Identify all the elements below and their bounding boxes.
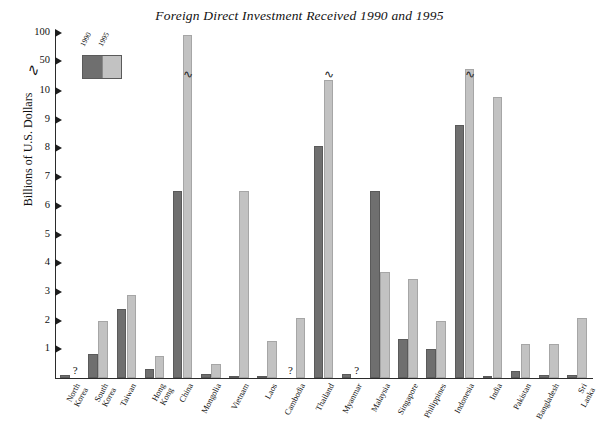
bar-laos-1995 — [267, 341, 277, 378]
x-label-china: China — [177, 382, 194, 404]
legend-swatch — [82, 55, 122, 79]
y-tick-9 — [55, 116, 62, 124]
y-tick-3 — [55, 288, 62, 296]
x-label-india: India — [488, 382, 504, 401]
legend-swatch-1990 — [83, 56, 102, 78]
y-tick-50 — [55, 57, 62, 65]
y-tick-4 — [55, 259, 62, 267]
bar-thailand-1990 — [314, 146, 324, 378]
bar-taiwan-1995 — [127, 295, 137, 378]
y-tick-label-2: 2 — [16, 314, 50, 325]
bar-indonesia-1995 — [465, 69, 475, 379]
bar-thailand-1995 — [324, 80, 334, 378]
bar-south-korea-1990 — [88, 354, 98, 378]
chart-legend: 1990 1995 — [82, 43, 126, 77]
x-label-philippines: Philippines — [422, 382, 448, 420]
x-label-cambodia: Cambodia — [283, 382, 307, 417]
x-label-singapore: Singapore — [396, 382, 420, 416]
bar-break-icon-indonesia: ∿ — [465, 69, 474, 80]
y-tick-label-6: 6 — [16, 199, 50, 210]
legend-label-1990: 1990 — [78, 31, 93, 48]
y-tick-label-3: 3 — [16, 285, 50, 296]
missing-marker-north-korea-1995: ? — [70, 364, 80, 376]
bar-indonesia-1990 — [455, 125, 465, 378]
y-axis-break-icon: ∿ — [28, 60, 39, 82]
chart-container: Foreign Direct Investment Received 1990 … — [0, 0, 599, 425]
y-tick-6 — [55, 202, 62, 210]
bar-china-1995 — [183, 35, 193, 378]
bar-vietnam-1990 — [229, 376, 239, 378]
bar-pakistan-1990 — [511, 371, 521, 378]
bar-taiwan-1990 — [117, 309, 127, 378]
bar-mongolia-1995 — [211, 364, 221, 378]
bar-india-1990 — [483, 376, 493, 378]
bar-sri-lanka-1990 — [567, 375, 577, 378]
bar-india-1995 — [493, 97, 503, 378]
x-label-malaysia: Malaysia — [369, 382, 391, 413]
x-label-laos: Laos — [264, 382, 280, 401]
bar-philippines-1995 — [436, 321, 446, 378]
y-tick-label-9: 9 — [16, 113, 50, 124]
x-label-pakistan: Pakistan — [511, 382, 532, 411]
y-tick-5 — [55, 231, 62, 239]
bar-break-icon-thailand: ∿ — [324, 69, 333, 80]
bar-hong-kong-1990 — [145, 369, 155, 378]
bar-hong-kong-1995 — [155, 356, 165, 378]
bar-singapore-1995 — [408, 279, 418, 378]
y-tick-100 — [55, 29, 62, 37]
bar-north-korea-1990 — [60, 375, 70, 378]
y-tick-2 — [55, 317, 62, 325]
y-tick-7 — [55, 173, 62, 181]
bar-myanmar-1990 — [342, 374, 352, 378]
bar-singapore-1990 — [398, 339, 408, 378]
y-tick-label-10: 10 — [16, 84, 50, 95]
bar-sri-lanka-1995 — [577, 318, 587, 378]
bar-vietnam-1995 — [239, 191, 249, 378]
x-label-bangladesh: Bangladesh — [534, 382, 560, 421]
x-label-vietnam: Vietnam — [230, 382, 251, 411]
bar-malaysia-1995 — [380, 272, 390, 378]
missing-marker-myanmar-1995: ? — [352, 364, 362, 376]
x-label-indonesia: Indonesia — [453, 382, 476, 415]
x-label-thailand: Thailand — [314, 382, 336, 413]
x-label-myanmar: Myanmar — [340, 382, 363, 415]
x-label-taiwan: Taiwan — [119, 382, 138, 408]
legend-swatch-1995 — [102, 56, 122, 78]
bar-south-korea-1995 — [98, 321, 108, 378]
y-tick-label-100: 100 — [16, 26, 50, 37]
bar-laos-1990 — [257, 376, 267, 378]
chart-title: Foreign Direct Investment Received 1990 … — [0, 8, 599, 24]
y-tick-1 — [55, 345, 62, 353]
x-label-south-korea: SouthKorea — [93, 382, 119, 409]
y-tick-10 — [55, 87, 62, 95]
y-tick-label-4: 4 — [16, 256, 50, 267]
y-tick-label-7: 7 — [16, 170, 50, 181]
x-label-mongolia: Mongolia — [200, 382, 223, 415]
x-label-sri-lanka: SriLanka — [571, 382, 597, 409]
bar-bangladesh-1990 — [539, 375, 549, 378]
y-tick-8 — [55, 144, 62, 152]
y-tick-label-5: 5 — [16, 228, 50, 239]
bar-china-1990 — [173, 191, 183, 378]
x-label-north-korea: NorthKorea — [64, 382, 90, 409]
y-tick-label-8: 8 — [16, 141, 50, 152]
bar-break-icon-china: ∿ — [183, 69, 192, 80]
bar-cambodia-1995 — [296, 318, 306, 378]
bar-mongolia-1990 — [201, 374, 211, 378]
bar-pakistan-1995 — [521, 344, 531, 378]
x-label-hong-kong: HongKong — [150, 382, 175, 407]
bar-bangladesh-1995 — [549, 344, 559, 378]
x-axis-line — [55, 378, 593, 379]
y-tick-label-1: 1 — [16, 342, 50, 353]
legend-label-1995: 1995 — [96, 31, 111, 48]
missing-marker-cambodia-1990: ? — [286, 364, 296, 376]
bar-philippines-1990 — [426, 349, 436, 378]
bar-malaysia-1990 — [370, 191, 380, 378]
